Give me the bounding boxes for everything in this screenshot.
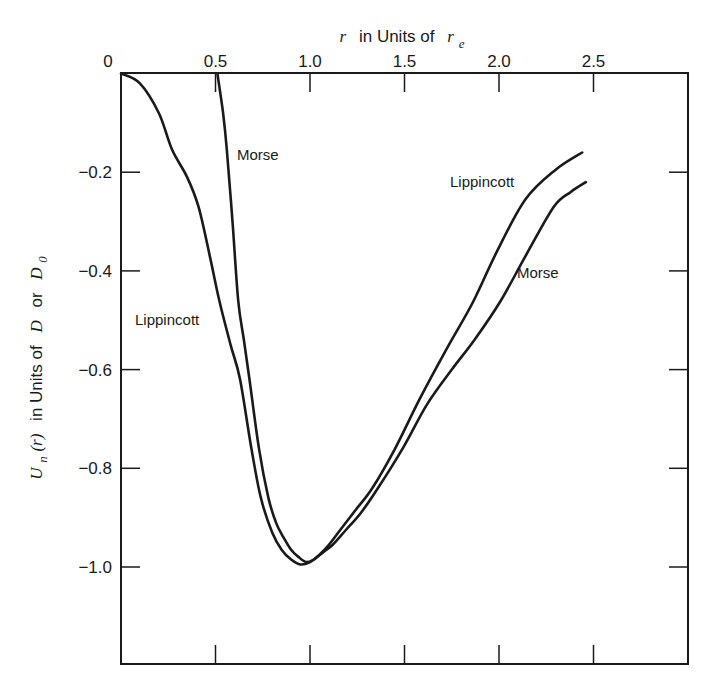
x-tick-label: 2.5	[582, 52, 606, 71]
x-tick-label: 2.0	[487, 52, 511, 71]
axis-ticks	[121, 73, 688, 664]
x-axis-var: r	[340, 27, 347, 46]
morse-label-upper: Morse	[237, 146, 279, 163]
x-tick-label: 0	[103, 52, 112, 71]
x-tick-label: 1.0	[298, 52, 322, 71]
y-axis-var-d: D	[27, 320, 46, 334]
lippincott-label-right: Lippincott	[450, 173, 515, 190]
y-tick-label: −0.8	[78, 459, 112, 478]
y-tick-label: −0.4	[78, 262, 112, 281]
potential-energy-chart: 00.51.01.52.02.5−0.2−0.4−0.6−0.8−1.0 r i…	[0, 0, 712, 691]
x-axis-text: in Units of	[359, 27, 435, 46]
x-tick-label: 0.5	[204, 52, 228, 71]
x-axis-title: r in Units of r e	[340, 27, 465, 51]
y-tick-label: −1.0	[78, 558, 112, 577]
y-axis-text1: in Units of	[27, 345, 46, 421]
y-tick-label: −0.6	[78, 361, 112, 380]
x-axis-unit-var: r	[447, 27, 454, 46]
x-tick-label: 1.5	[393, 52, 417, 71]
y-axis-var-d0-sub: 0	[35, 256, 50, 263]
plot-frame	[121, 73, 688, 664]
y-axis-title: U n (r) in Units of D or D 0	[27, 256, 51, 480]
x-axis-unit-sub: e	[459, 36, 465, 51]
y-axis-var-d0: D	[27, 267, 46, 281]
y-axis-func: U	[27, 466, 46, 480]
lippincott-label-left: Lippincott	[135, 311, 200, 328]
y-tick-label: −0.2	[78, 163, 112, 182]
y-axis-func-sub: n	[35, 456, 50, 463]
y-axis-text2: or	[27, 292, 46, 307]
y-axis-arg: (r)	[27, 433, 46, 451]
morse-label-right: Morse	[517, 264, 559, 281]
